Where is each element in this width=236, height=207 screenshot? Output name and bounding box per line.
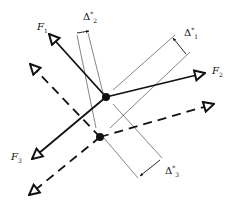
label-delta3: Δ*3 — [165, 165, 179, 178]
projection-lines — [77, 33, 190, 178]
original-forces — [32, 34, 205, 159]
force-f1-arrow — [49, 34, 106, 97]
label-delta2: Δ*2 — [83, 11, 97, 24]
label-delta1: Δ*1 — [184, 27, 198, 40]
displaced-f3-arrow — [29, 137, 100, 195]
displaced-node — [96, 133, 104, 141]
offset-arrows — [77, 31, 186, 176]
force-f2-arrow — [106, 73, 205, 97]
force-diagram: F1 F2 F3 Δ*2 Δ*1 Δ*3 — [0, 0, 236, 207]
force-f3-arrow — [32, 97, 106, 159]
label-f2: F2 — [212, 66, 223, 78]
original-node — [102, 93, 110, 101]
label-f1: F1 — [37, 22, 48, 34]
displaced-f1-arrow — [30, 64, 100, 137]
label-f3: F3 — [11, 152, 22, 164]
diagram-svg — [0, 0, 236, 207]
displaced-forces — [29, 64, 214, 195]
